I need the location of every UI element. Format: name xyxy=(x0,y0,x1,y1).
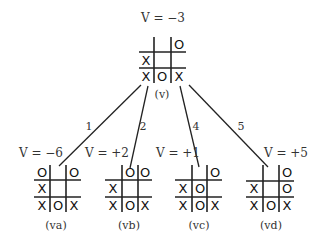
vc-value-label: V = +1 xyxy=(155,146,200,160)
vd-node-label: (vd) xyxy=(260,219,282,232)
cell-1-0: X xyxy=(109,181,118,196)
root-value-label: V = −3 xyxy=(140,11,185,25)
game-tree-diagram: V = −3 O X X O X (v) 1 2 4 5 V = −6 V = … xyxy=(0,0,321,246)
vd-board-marks: O X O X O X xyxy=(250,165,293,213)
cell-2-2: X xyxy=(283,198,292,213)
edge-label-1: 1 xyxy=(86,120,93,133)
cell-2-1: O xyxy=(266,198,276,213)
cell-2-2: X xyxy=(70,198,79,213)
cell-0-0: O xyxy=(37,165,47,180)
root-node-label: (v) xyxy=(155,88,170,101)
edge-label-5: 5 xyxy=(238,120,245,133)
edge-label-2: 2 xyxy=(140,120,147,133)
root-board-marks: O X X O X xyxy=(142,37,185,84)
cell-2-1: O xyxy=(157,69,167,84)
edge-label-4: 4 xyxy=(193,120,200,133)
cell-1-0: X xyxy=(142,53,151,68)
cell-0-2: O xyxy=(282,165,292,180)
cell-2-1: O xyxy=(125,198,135,213)
cell-0-2: O xyxy=(210,165,220,180)
vc-board-marks: O X O X O X xyxy=(179,165,221,213)
cell-2-0: X xyxy=(109,198,118,213)
cell-0-2: O xyxy=(140,165,150,180)
cell-0-2: O xyxy=(174,37,184,52)
cell-1-2: O xyxy=(282,181,292,196)
va-node-label: (va) xyxy=(45,219,66,232)
cell-0-2: O xyxy=(69,165,79,180)
cell-2-0: X xyxy=(38,198,47,213)
cell-1-0: X xyxy=(250,181,259,196)
cell-1-0: X xyxy=(179,181,188,196)
cell-2-1: O xyxy=(195,198,205,213)
cell-1-1: O xyxy=(195,181,205,196)
cell-1-0: X xyxy=(38,181,47,196)
vd-value-label: V = +5 xyxy=(263,146,308,160)
vc-node-label: (vc) xyxy=(189,219,210,232)
cell-2-1: O xyxy=(53,198,63,213)
vb-node-label: (vb) xyxy=(118,219,140,232)
cell-0-1: O xyxy=(125,165,135,180)
cell-2-2: X xyxy=(175,69,184,84)
cell-2-0: X xyxy=(142,69,151,84)
cell-2-2: X xyxy=(141,198,150,213)
va-value-label: V = −6 xyxy=(18,146,63,160)
cell-2-0: X xyxy=(179,198,188,213)
va-board-marks: O O X X O X xyxy=(37,165,79,213)
vb-value-label: V = +2 xyxy=(84,146,129,160)
vb-board-marks: O O X X O X xyxy=(109,165,151,213)
cell-2-0: X xyxy=(250,198,259,213)
edge-vd xyxy=(189,85,268,167)
cell-2-2: X xyxy=(211,198,220,213)
